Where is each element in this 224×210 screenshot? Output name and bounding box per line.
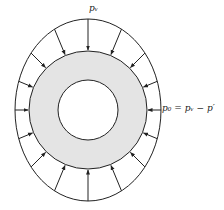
pressure-arrow bbox=[111, 29, 122, 54]
pressure-arrow bbox=[130, 152, 145, 167]
pressure-arrow bbox=[143, 81, 157, 87]
pressure-arrow bbox=[143, 133, 157, 139]
pressure-arrow bbox=[19, 81, 33, 87]
pressure-arrow bbox=[31, 53, 46, 68]
label-pv: pᵥ bbox=[89, 3, 98, 13]
pressure-arrow bbox=[55, 29, 66, 54]
label-p0-equation: p₀ = pᵥ − p′ bbox=[162, 103, 215, 113]
inner-hole bbox=[58, 80, 118, 140]
pressure-arrow bbox=[31, 152, 46, 167]
pressure-arrow bbox=[130, 53, 145, 68]
pressure-arrow bbox=[19, 133, 33, 139]
pressure-arrow bbox=[55, 165, 66, 190]
pressure-arrow bbox=[111, 165, 122, 190]
